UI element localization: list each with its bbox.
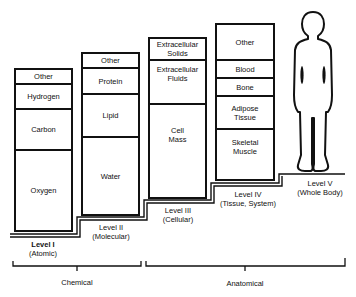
level-1-subtitle: (Atomic) xyxy=(10,249,76,258)
level-1-hydrogen: Hydrogen xyxy=(15,84,72,109)
figure-left-arm-line xyxy=(300,66,303,84)
level-2-protein: Protein xyxy=(82,68,139,94)
label-line: Solids xyxy=(167,49,187,58)
label-line: Skeletal xyxy=(232,138,259,147)
level-1-carbon: Carbon xyxy=(15,109,72,150)
level-3-subtitle: (Cellular) xyxy=(143,215,213,224)
level-5-title: Level V xyxy=(285,179,355,188)
level-1-other: Other xyxy=(15,69,72,84)
label-line: Mass xyxy=(169,135,187,144)
group-chemical-label: Chemical xyxy=(40,278,114,287)
label-line: Fluids xyxy=(167,74,187,83)
level-3-extracellular-solids: Extracellular Solids xyxy=(149,38,206,60)
level-4-subtitle: (Tissue, System) xyxy=(206,199,290,208)
level-3-extracellular-fluids: Extracellular Fluids xyxy=(149,60,206,90)
level-2-other: Other xyxy=(82,53,139,68)
level-4-blood: Blood xyxy=(216,60,274,78)
level-4-bone: Bone xyxy=(216,78,274,96)
level-4-title: Level IV xyxy=(206,190,290,199)
level-2-lipid: Lipid xyxy=(82,94,139,137)
level-4-other: Other xyxy=(216,24,274,60)
label-line: Tissue xyxy=(234,113,256,122)
label-line: Extracellular xyxy=(157,40,198,49)
label-line: Adipose xyxy=(231,104,258,113)
figure-right-arm-line xyxy=(322,66,325,84)
level-3-cell-mass: Cell Mass xyxy=(149,104,206,198)
level-2-water: Water xyxy=(82,137,139,215)
level-5-subtitle: (Whole Body) xyxy=(285,188,355,197)
level-4-adipose-tissue: Adipose Tissue xyxy=(216,96,274,129)
level-2-subtitle: (Molecular) xyxy=(76,232,146,241)
group-anatomical-label: Anatomical xyxy=(205,279,285,288)
level-3-title: Level III xyxy=(143,206,213,215)
human-figure-icon xyxy=(294,12,332,171)
level-4-skeletal-muscle: Skeletal Muscle xyxy=(216,129,274,165)
label-line: Cell xyxy=(171,126,184,135)
label-line: Extracellular xyxy=(157,65,198,74)
label-line: Muscle xyxy=(233,147,257,156)
level-2-title: Level II xyxy=(76,223,146,232)
level-1-oxygen: Oxygen xyxy=(15,150,72,231)
level-1-title: Level I xyxy=(10,240,76,249)
